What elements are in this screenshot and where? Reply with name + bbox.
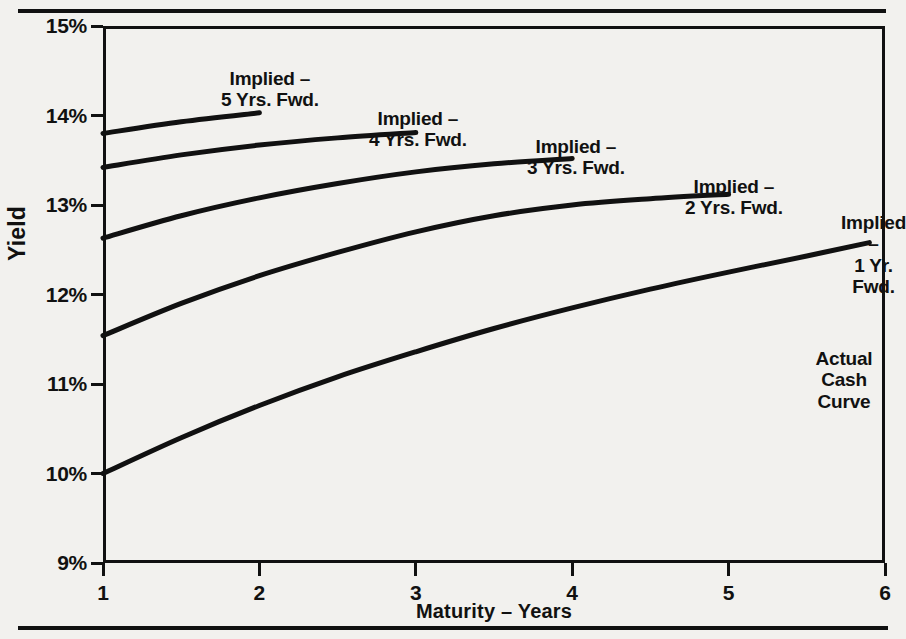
y-tick-label: 9% <box>57 551 87 575</box>
x-tick-mark <box>571 563 574 576</box>
cropped-title <box>55 0 695 5</box>
x-axis-title: Maturity – Years <box>103 600 885 623</box>
y-tick-label: 11% <box>47 372 87 396</box>
y-tick-label: 15% <box>46 14 87 38</box>
y-tick-label: 14% <box>46 104 87 128</box>
annotation-implied-2-yrs-fwd: Implied – 2 Yrs. Fwd. <box>685 176 783 219</box>
bottom-rule <box>18 626 888 630</box>
y-tick-mark <box>91 114 103 117</box>
curve-implied-2-yrs-fwd <box>103 158 572 238</box>
x-tick-mark <box>258 563 261 576</box>
y-tick-mark <box>91 25 103 28</box>
y-tick-label: 12% <box>46 283 87 307</box>
x-tick-mark <box>884 563 887 576</box>
annotation-implied-1-yr-fwd: Implied – 1 Yr. Fwd. <box>841 212 906 297</box>
y-tick-mark <box>91 293 103 296</box>
y-tick-mark <box>91 204 103 207</box>
y-tick-label: 13% <box>46 193 87 217</box>
y-tick-mark <box>91 383 103 386</box>
curve-implied-4-yrs-fwd <box>103 113 259 134</box>
plot-area: 9%10%11%12%13%14%15% 123456 Implied – 5 … <box>103 26 885 563</box>
x-tick-mark <box>102 563 105 576</box>
curve-actual-cash-curve <box>103 243 869 474</box>
y-tick-mark <box>91 472 103 475</box>
curve-implied-1-yr-fwd <box>103 194 729 335</box>
x-tick-mark <box>414 563 417 576</box>
annotation-implied-4-yrs-fwd: Implied – 4 Yrs. Fwd. <box>369 108 467 151</box>
y-tick-label: 10% <box>46 462 87 486</box>
x-tick-mark <box>727 563 730 576</box>
annotation-actual-cash-curve: Actual Cash Curve <box>803 348 885 412</box>
annotation-implied-3-yrs-fwd: Implied – 3 Yrs. Fwd. <box>527 136 625 179</box>
annotation-implied-5-yrs-fwd: Implied – 5 Yrs. Fwd. <box>221 68 319 111</box>
y-axis-title: Yield <box>4 206 31 261</box>
top-rule <box>18 9 886 13</box>
